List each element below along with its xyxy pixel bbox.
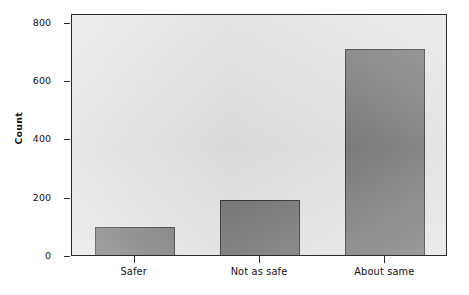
y-tick-mark (64, 81, 70, 82)
y-tick-label: 0 (21, 251, 51, 261)
y-tick-mark (64, 23, 70, 24)
bars-layer (72, 15, 446, 255)
bar (95, 227, 175, 255)
x-tick-label: About same (324, 266, 444, 278)
y-tick-label: 200 (21, 193, 51, 203)
x-tick-mark (134, 256, 135, 263)
x-tick-mark (384, 256, 385, 263)
y-tick-label: 600 (21, 76, 51, 86)
y-tick-label: 800 (21, 18, 51, 28)
x-tick-label: Safer (74, 266, 194, 278)
y-tick-mark (64, 139, 70, 140)
bar-chart: Count 0200400600800 SaferNot as safeAbou… (0, 0, 469, 295)
y-tick-mark (64, 256, 70, 257)
plot-area (71, 14, 447, 256)
bar (220, 200, 300, 255)
x-tick-mark (259, 256, 260, 263)
y-tick-mark (64, 198, 70, 199)
bar (345, 49, 425, 255)
x-tick-label: Not as safe (199, 266, 319, 278)
y-tick-label: 400 (21, 134, 51, 144)
